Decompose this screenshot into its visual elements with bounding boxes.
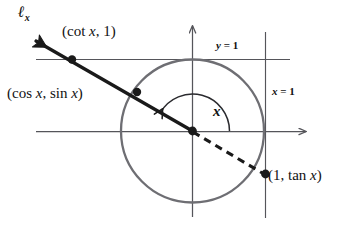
cot-variable: x bbox=[89, 23, 96, 39]
y-value: 1 bbox=[233, 39, 239, 51]
paren-close: ) bbox=[317, 167, 322, 183]
label-point-cot-x-1: (cot x, 1) bbox=[62, 24, 116, 39]
label-point-cos-x-sin-x: (cos x, sin x) bbox=[7, 86, 83, 101]
label-line-y-equals-1: y = 1 bbox=[216, 40, 238, 51]
cot-function: cot bbox=[67, 23, 85, 39]
cot-value: 1 bbox=[103, 23, 111, 39]
paren-close: ) bbox=[78, 85, 83, 101]
x-value: 1 bbox=[289, 85, 295, 97]
tan-variable: x bbox=[310, 167, 317, 183]
ell-subscript: x bbox=[25, 12, 30, 23]
line-label-ell-x: ℓx bbox=[18, 4, 30, 23]
equals-sign: = bbox=[221, 39, 233, 51]
comma-sep: , bbox=[42, 85, 50, 101]
cos-function: cos bbox=[12, 85, 32, 101]
label-line-x-equals-1: x = 1 bbox=[272, 86, 295, 97]
tan-function: tan bbox=[288, 167, 306, 183]
comma-sep: , bbox=[281, 167, 289, 183]
equals-sign: = bbox=[278, 85, 290, 97]
point-cot-x-1[interactable] bbox=[68, 55, 76, 63]
label-point-1-tan-x: (1, tan x) bbox=[268, 168, 322, 183]
label-angle-x: x bbox=[213, 104, 221, 119]
sin-function: sin bbox=[50, 85, 68, 101]
point-cos-x-sin-x[interactable] bbox=[133, 88, 141, 96]
tangent-dashed-ray bbox=[193, 132, 264, 174]
sin-variable: x bbox=[71, 85, 78, 101]
ell-glyph: ℓ bbox=[18, 3, 25, 20]
paren-close: ) bbox=[111, 23, 116, 39]
point-origin[interactable] bbox=[188, 127, 197, 136]
figure-canvas: ℓx (cot x, 1) (cos x, sin x) (1, tan x) … bbox=[0, 0, 359, 244]
tan-value: 1 bbox=[273, 167, 281, 183]
unit-circle-diagram bbox=[0, 0, 359, 244]
